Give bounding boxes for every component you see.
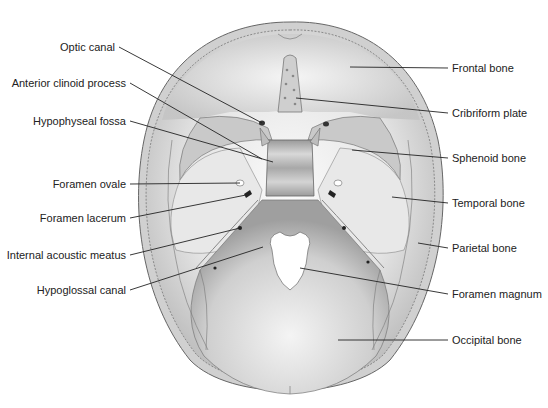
optic-canal-right <box>323 122 329 127</box>
label-anterior-clinoid-process: Anterior clinoid process <box>12 77 126 89</box>
label-hypophyseal-fossa: Hypophyseal fossa <box>33 115 126 127</box>
label-sphenoid-bone: Sphenoid bone <box>452 152 526 164</box>
hypoglossal-canal-left <box>213 266 216 269</box>
label-temporal-bone: Temporal bone <box>452 197 525 209</box>
internal-acoustic-meatus-right <box>342 226 346 230</box>
label-parietal-bone: Parietal bone <box>452 242 517 254</box>
label-foramen-lacerum: Foramen lacerum <box>40 212 126 224</box>
hypoglossal-canal-right <box>366 260 369 263</box>
foramen-ovale-right <box>334 180 342 186</box>
label-foramen-ovale: Foramen ovale <box>53 178 126 190</box>
label-foramen-magnum: Foramen magnum <box>452 288 542 300</box>
label-cribriform-plate: Cribriform plate <box>452 107 527 119</box>
label-hypoglossal-canal: Hypoglossal canal <box>37 284 126 296</box>
label-internal-acoustic-meatus: Internal acoustic meatus <box>7 249 126 261</box>
label-occipital-bone: Occipital bone <box>452 334 522 346</box>
label-frontal-bone: Frontal bone <box>452 62 514 74</box>
label-optic-canal: Optic canal <box>60 41 115 53</box>
